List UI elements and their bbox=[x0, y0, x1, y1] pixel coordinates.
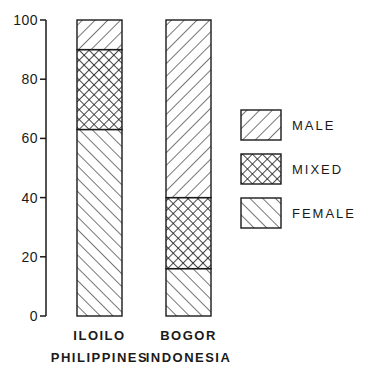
bar-bogor bbox=[166, 20, 211, 316]
legend-item-male: MALE bbox=[241, 110, 335, 140]
bar-segment-male bbox=[166, 20, 211, 198]
category-label: BOGOR bbox=[160, 328, 217, 343]
y-tick-label: 80 bbox=[21, 71, 38, 87]
legend-swatch bbox=[241, 198, 281, 228]
stacked-bar-chart: 020406080100 ILOILOPHILIPPINESBOGORINDON… bbox=[0, 0, 370, 382]
category-sublabel: PHILIPPINES bbox=[51, 350, 148, 365]
bar-iloilo bbox=[77, 20, 122, 316]
y-tick-label: 100 bbox=[13, 12, 38, 28]
y-tick-label: 60 bbox=[21, 130, 38, 146]
bar-segment-male bbox=[77, 20, 122, 50]
bar-segment-female bbox=[166, 269, 211, 316]
y-axis: 020406080100 bbox=[13, 12, 46, 324]
x-axis-labels: ILOILOPHILIPPINESBOGORINDONESIA bbox=[51, 328, 232, 365]
legend: MALEMIXEDFEMALE bbox=[241, 110, 356, 228]
legend-swatch bbox=[241, 154, 281, 184]
bar-segment-mixed bbox=[166, 198, 211, 269]
category-label: ILOILO bbox=[73, 328, 125, 343]
y-tick-label: 0 bbox=[30, 308, 38, 324]
legend-swatch bbox=[241, 110, 281, 140]
legend-item-mixed: MIXED bbox=[241, 154, 343, 184]
category-sublabel: INDONESIA bbox=[146, 350, 232, 365]
bars bbox=[77, 20, 211, 316]
y-tick-label: 40 bbox=[21, 190, 38, 206]
bar-segment-mixed bbox=[77, 50, 122, 130]
legend-item-female: FEMALE bbox=[241, 198, 356, 228]
bar-segment-female bbox=[77, 130, 122, 316]
legend-label: FEMALE bbox=[292, 206, 356, 221]
legend-label: MIXED bbox=[292, 162, 343, 177]
y-tick-label: 20 bbox=[21, 249, 38, 265]
legend-label: MALE bbox=[292, 118, 335, 133]
